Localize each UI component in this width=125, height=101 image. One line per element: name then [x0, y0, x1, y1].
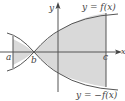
point-a-label: a — [6, 53, 11, 62]
x-axis-label: x — [121, 48, 125, 56]
diagram-canvas — [0, 0, 125, 101]
curve-neg-f-label: y = −f(x) — [76, 91, 117, 100]
point-c-label: c — [103, 53, 108, 62]
y-axis-label: y — [49, 4, 54, 13]
curve-f-label: y = f(x) — [82, 3, 116, 12]
area-between-curves-diagram: y x y = f(x) y = −f(x) a b c — [0, 0, 125, 101]
point-b-label: b — [31, 56, 37, 65]
